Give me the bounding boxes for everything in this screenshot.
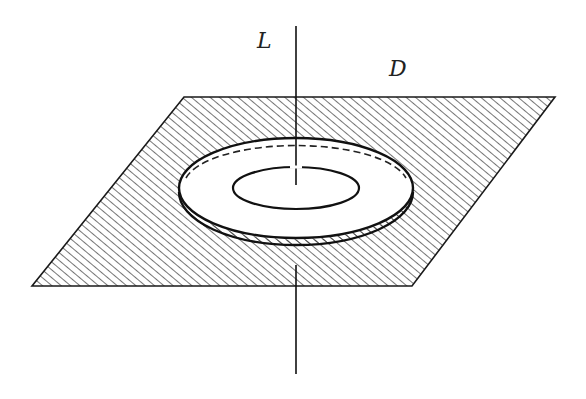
- label-l: L: [256, 28, 272, 53]
- diagram-canvas: L D: [0, 0, 586, 399]
- label-d: D: [388, 56, 407, 81]
